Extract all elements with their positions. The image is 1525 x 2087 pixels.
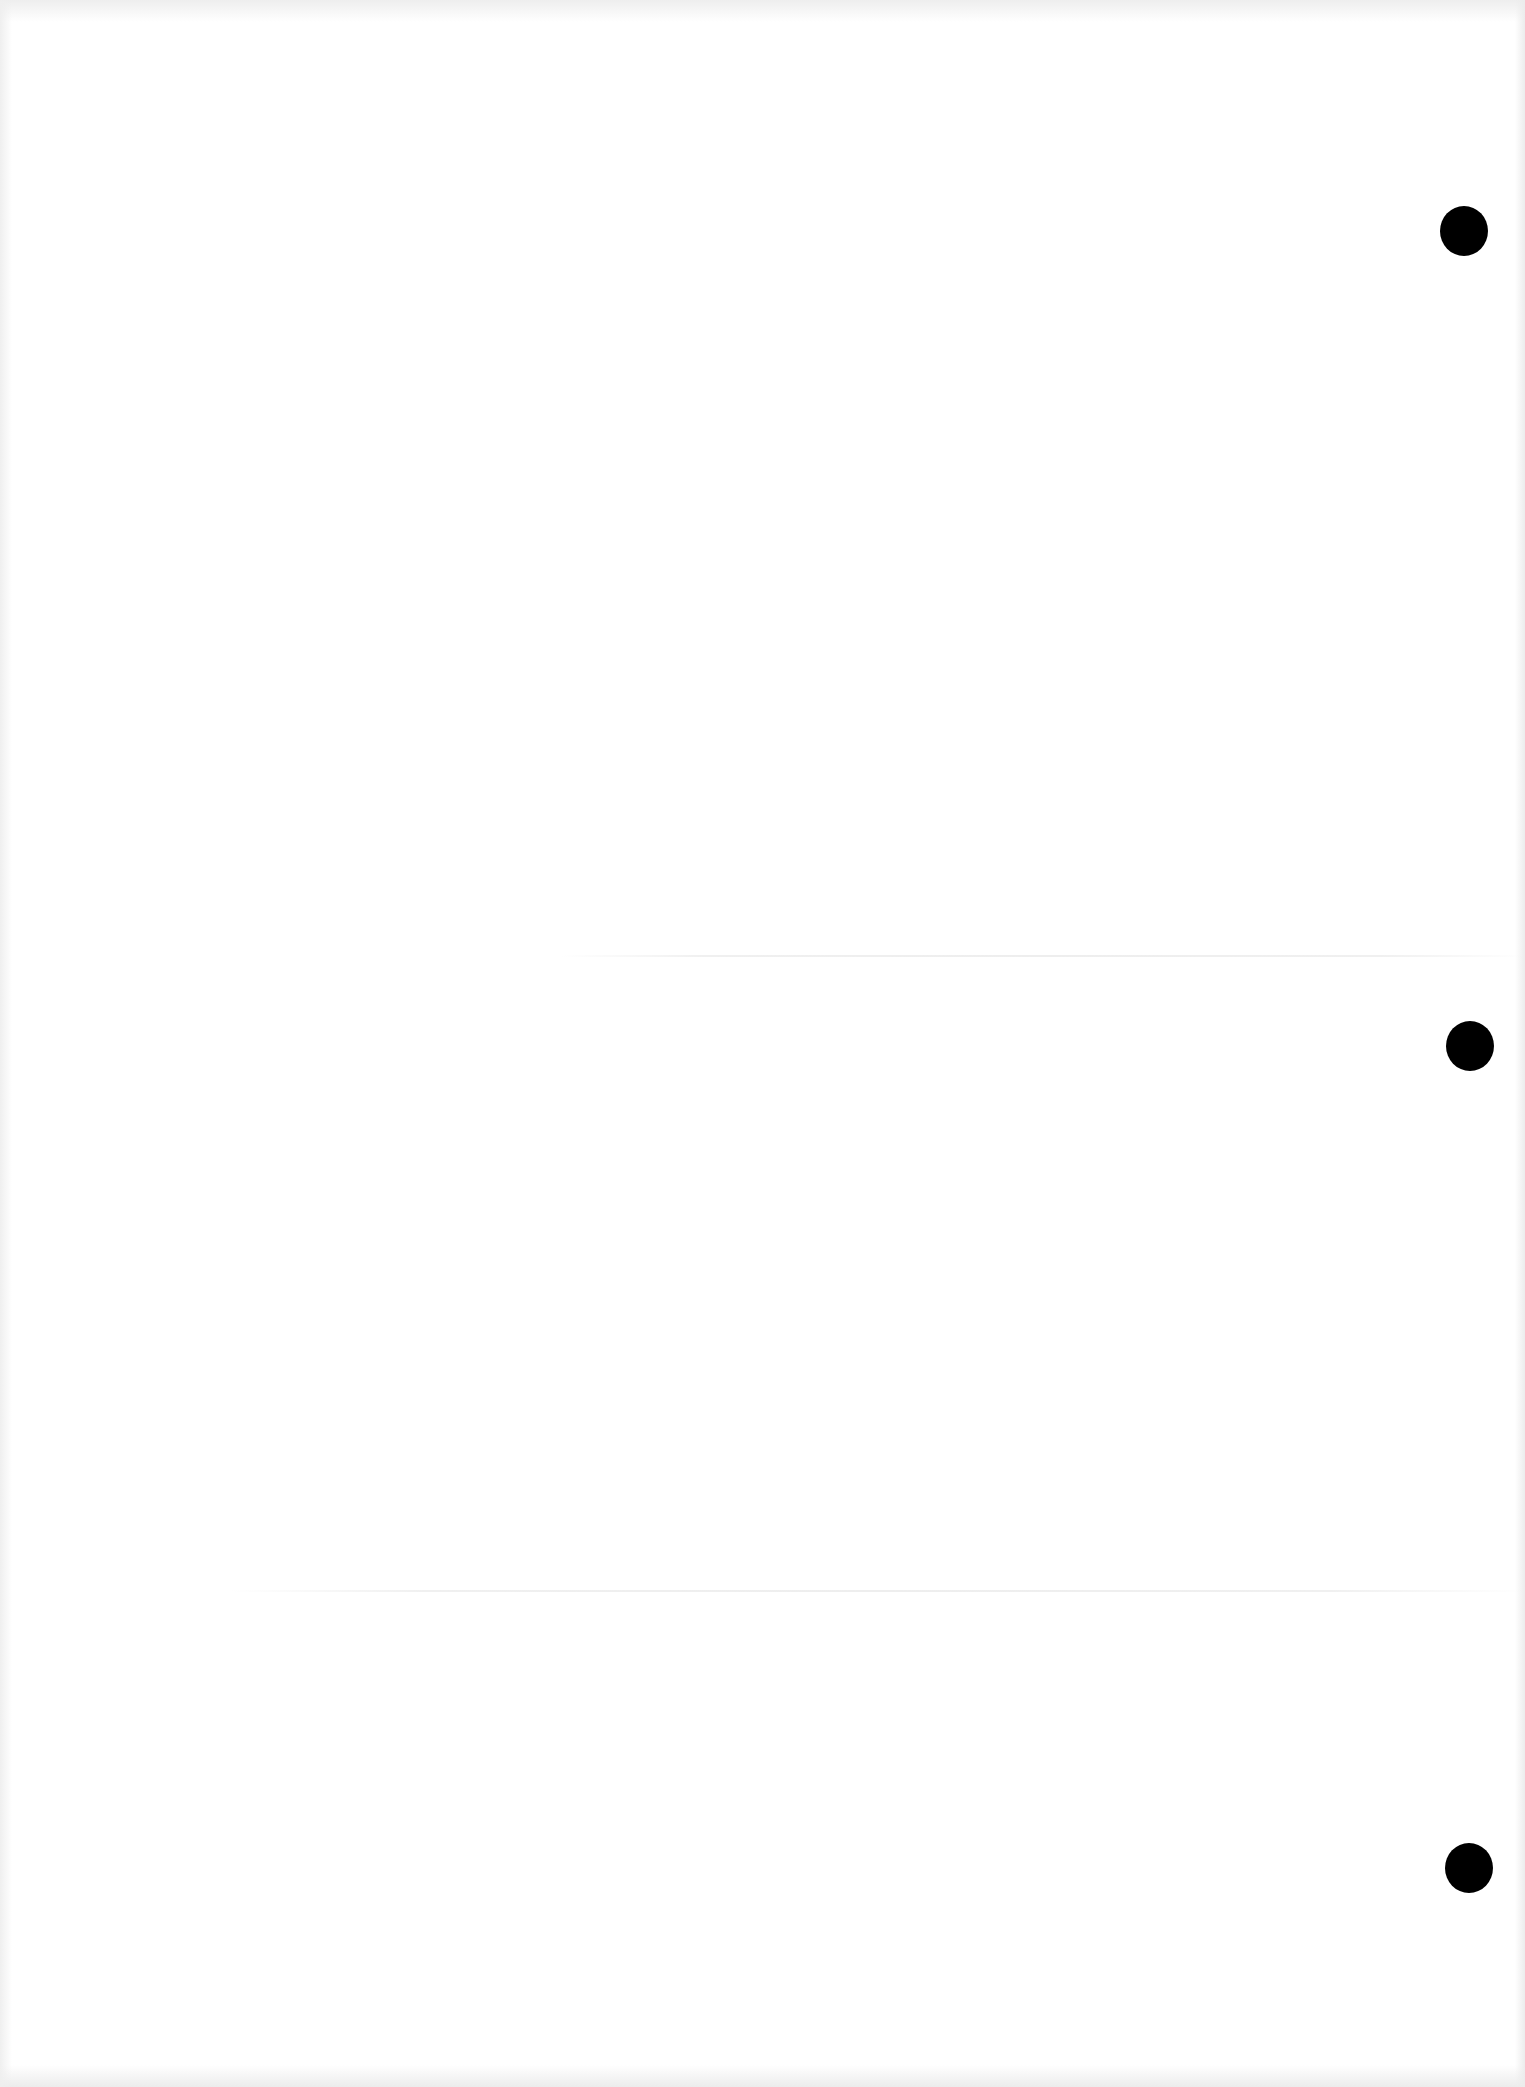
scan-edge-shadow-bottom [0, 2065, 1525, 2087]
scan-edge-shadow-top [0, 0, 1525, 22]
scan-edge-shadow-left [0, 0, 12, 2087]
punch-hole-bottom-icon [1445, 1843, 1493, 1893]
punch-hole-middle-icon [1446, 1021, 1494, 1071]
paper-crease-line [230, 1590, 1525, 1592]
paper-crease-line [560, 955, 1525, 957]
punch-hole-top-icon [1440, 206, 1488, 256]
blank-page [0, 0, 1525, 2087]
scan-edge-shadow-right [1515, 0, 1525, 2087]
